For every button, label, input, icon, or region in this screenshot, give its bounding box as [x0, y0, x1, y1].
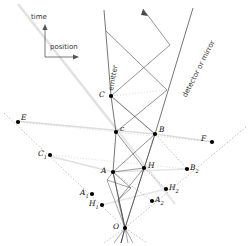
point-label-H2: H2 [169, 184, 179, 194]
point-marker-layer [16, 94, 214, 230]
point-marker-A2 [150, 199, 154, 203]
axis-label-time: time [31, 14, 47, 21]
point-label-C: C [99, 91, 105, 99]
faint-diagonal-group [18, 4, 175, 204]
axis-label-position: position [50, 44, 78, 51]
dashed-simultaneity-group [4, 113, 246, 243]
point-marker-B2 [185, 167, 189, 171]
point-label-c: c [120, 125, 124, 133]
point-marker-A [111, 170, 115, 174]
point-marker-C1 [48, 153, 52, 157]
point-marker-C [109, 94, 113, 98]
point-label-A2: A2 [155, 196, 164, 206]
point-label-B2: B2 [190, 164, 199, 174]
point-label-A: A [101, 167, 106, 175]
spacetime-diagram: time position emitter detector or mirror… [0, 0, 251, 246]
point-marker-F [210, 140, 214, 144]
point-marker-H [142, 166, 146, 170]
dotted-group [18, 90, 212, 169]
point-marker-c [114, 130, 118, 134]
point-label-B: B [159, 126, 165, 134]
point-marker-H1 [100, 203, 104, 207]
point-marker-B [153, 132, 157, 136]
point-label-A1: A1 [80, 189, 89, 199]
point-label-H: H [148, 162, 155, 170]
point-label-E: E [21, 114, 26, 122]
diagram-canvas [0, 0, 251, 246]
point-label-H1: H1 [89, 200, 99, 210]
point-label-C1: C1 [38, 150, 47, 160]
point-marker-E [16, 120, 20, 124]
detector-worldline [121, 8, 193, 243]
point-label-F: F [201, 135, 206, 143]
point-marker-H2 [164, 187, 168, 191]
point-marker-O [123, 226, 127, 230]
point-label-O: O [113, 223, 119, 231]
point-marker-A1 [90, 192, 94, 196]
